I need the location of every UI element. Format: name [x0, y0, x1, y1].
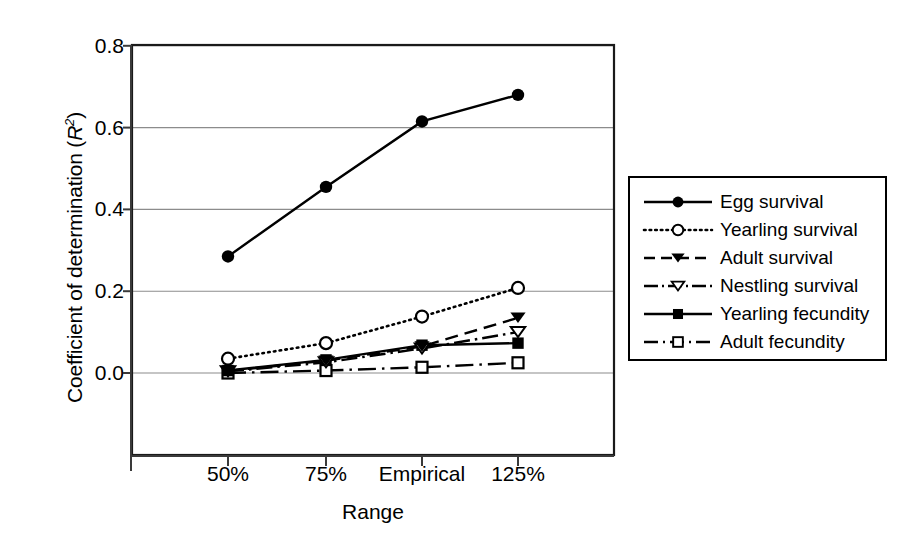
legend-item: Yearling fecundity	[630, 300, 885, 328]
data-point-marker	[673, 309, 683, 319]
legend-marker-icon	[642, 330, 714, 354]
legend-item-label: Adult survival	[720, 247, 833, 269]
data-point-marker	[512, 337, 523, 348]
data-point-marker	[510, 313, 525, 324]
legend-item-label: Yearling survival	[720, 219, 858, 241]
series-line	[228, 288, 518, 359]
legend-item: Adult survival	[630, 244, 885, 272]
legend-line-sample	[642, 218, 714, 242]
data-point-marker	[320, 181, 332, 193]
data-point-marker	[222, 250, 234, 262]
legend-line-sample	[642, 190, 714, 214]
data-point-marker	[416, 115, 428, 127]
legend-item-label: Nestling survival	[720, 275, 858, 297]
data-point-marker	[673, 197, 684, 208]
data-point-marker	[673, 337, 683, 347]
data-point-marker	[416, 311, 428, 323]
data-point-marker	[673, 225, 684, 236]
legend-marker-icon	[642, 302, 714, 326]
legend-line-sample	[642, 246, 714, 270]
series-markers-egg-survival	[222, 89, 524, 263]
legend-item-label: Egg survival	[720, 191, 824, 213]
legend-item-label: Yearling fecundity	[720, 303, 869, 325]
legend-marker-icon	[642, 274, 714, 298]
data-point-marker	[222, 353, 234, 365]
legend-item: Nestling survival	[630, 272, 885, 300]
legend-line-sample	[642, 274, 714, 298]
chart-legend: Egg survival Yearling survival Adult sur…	[628, 176, 887, 361]
series-line	[228, 95, 518, 257]
data-point-marker	[513, 357, 524, 368]
data-point-marker	[320, 337, 332, 349]
legend-marker-icon	[642, 218, 714, 242]
series-yearling-survival	[228, 288, 518, 359]
legend-line-sample	[642, 330, 714, 354]
legend-item: Adult fecundity	[630, 328, 885, 356]
legend-marker-icon	[642, 190, 714, 214]
legend-marker-icon	[642, 246, 714, 270]
legend-item-label: Adult fecundity	[720, 331, 845, 353]
legend-item: Yearling survival	[630, 216, 885, 244]
series-egg-survival	[228, 95, 518, 257]
legend-item: Egg survival	[630, 188, 885, 216]
data-point-marker	[512, 89, 524, 101]
data-point-marker	[417, 362, 428, 373]
data-point-marker	[512, 282, 524, 294]
chart-figure: Coefficient of determination (R2) 0.0 0.…	[0, 0, 915, 554]
plot-frame	[132, 45, 614, 455]
legend-line-sample	[642, 302, 714, 326]
